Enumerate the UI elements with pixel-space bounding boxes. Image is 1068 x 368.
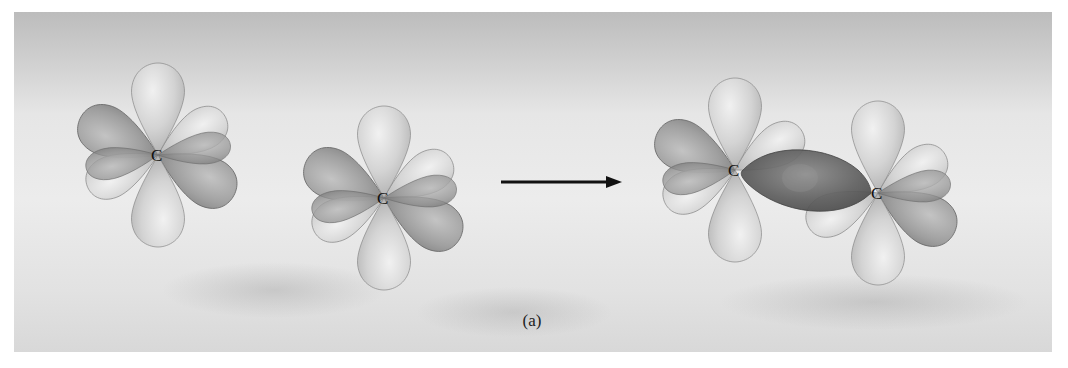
- carbon-label-1: C: [151, 146, 162, 165]
- carbon-label-3: C: [728, 161, 739, 180]
- figure-caption: (a): [0, 311, 1068, 331]
- carbon-label-4: C: [871, 184, 882, 203]
- caption-text: (a): [523, 311, 542, 331]
- reaction-arrow: [501, 176, 622, 188]
- bonded-carbon-pair: [647, 78, 966, 285]
- carbon-label-2: C: [377, 189, 388, 208]
